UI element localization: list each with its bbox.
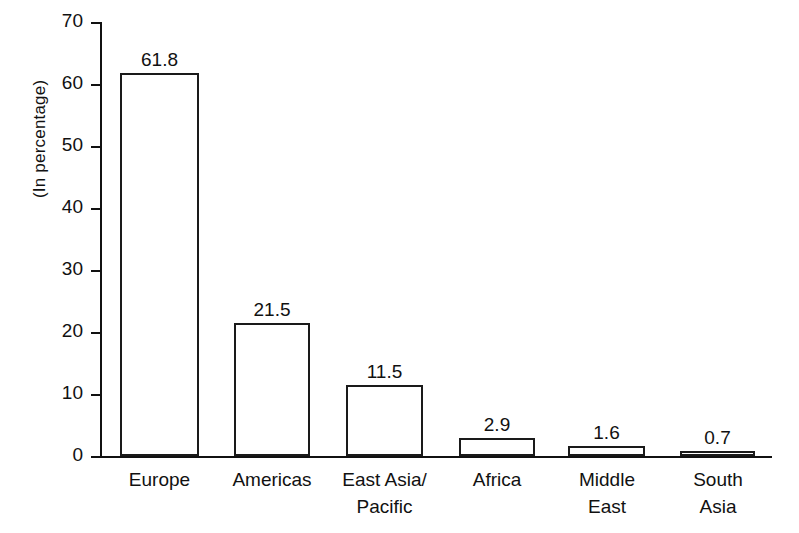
y-axis-tick-0: 0 bbox=[91, 456, 102, 458]
y-axis-tick-label-60: 60 bbox=[62, 73, 83, 93]
x-axis-label-east-asia-pacific: East Asia/ Pacific bbox=[328, 466, 441, 520]
y-axis-tick-20: 20 bbox=[91, 332, 102, 334]
x-axis-label-middle-east-line1: Middle bbox=[579, 469, 635, 490]
x-axis-label-south-asia-line2: Asia bbox=[662, 493, 774, 520]
x-axis-label-middle-east: Middle East bbox=[551, 466, 663, 520]
x-axis-label-africa: Africa bbox=[441, 466, 553, 493]
y-axis-title: (In percentage) bbox=[30, 0, 50, 198]
y-axis-tick-40: 40 bbox=[91, 208, 102, 210]
bar-value-south-asia: 0.7 bbox=[704, 427, 730, 448]
y-axis-tick-10: 10 bbox=[91, 394, 102, 396]
bar-middle-east[interactable]: 1.6 bbox=[568, 446, 645, 456]
y-axis-tick-label-0: 0 bbox=[72, 445, 83, 465]
x-axis-label-east-asia-pacific-line2: Pacific bbox=[328, 493, 441, 520]
x-axis-label-europe-line1: Europe bbox=[129, 469, 190, 490]
bar-americas[interactable]: 21.5 bbox=[234, 323, 310, 456]
y-axis-tick-label-20: 20 bbox=[62, 321, 83, 341]
y-axis-tick-60: 60 bbox=[91, 84, 102, 86]
y-axis-tick-label-30: 30 bbox=[62, 259, 83, 279]
bar-value-middle-east: 1.6 bbox=[593, 422, 619, 443]
bar-chart-figure: (In percentage) 70 60 50 40 30 20 10 0 bbox=[0, 0, 799, 533]
x-axis-label-east-asia-pacific-line1: East Asia/ bbox=[342, 469, 427, 490]
x-axis-label-americas-line1: Americas bbox=[232, 469, 311, 490]
x-axis-label-middle-east-line2: East bbox=[551, 493, 663, 520]
x-axis-label-south-asia: South Asia bbox=[662, 466, 774, 520]
x-axis-label-south-asia-line1: South bbox=[693, 469, 743, 490]
bar-africa[interactable]: 2.9 bbox=[459, 438, 535, 456]
y-axis-tick-label-10: 10 bbox=[62, 383, 83, 403]
bar-value-europe: 61.8 bbox=[141, 49, 178, 70]
x-axis-line bbox=[100, 456, 772, 458]
y-axis-line bbox=[100, 22, 102, 458]
y-axis-tick-label-70: 70 bbox=[62, 11, 83, 31]
x-axis-label-europe: Europe bbox=[104, 466, 215, 493]
x-axis-label-americas: Americas bbox=[216, 466, 328, 493]
bar-east-asia-pacific[interactable]: 11.5 bbox=[346, 385, 423, 456]
bar-value-africa: 2.9 bbox=[484, 414, 510, 435]
y-axis-tick-label-50: 50 bbox=[62, 135, 83, 155]
plot-area: 70 60 50 40 30 20 10 0 61.8 21.5 1 bbox=[100, 22, 772, 458]
y-axis-tick-50: 50 bbox=[91, 146, 102, 148]
bar-value-east-asia-pacific: 11.5 bbox=[367, 361, 403, 382]
y-axis-tick-70: 70 bbox=[91, 22, 102, 24]
bar-europe[interactable]: 61.8 bbox=[120, 73, 199, 456]
bar-south-asia[interactable]: 0.7 bbox=[680, 451, 755, 456]
y-axis-tick-30: 30 bbox=[91, 270, 102, 272]
bar-value-americas: 21.5 bbox=[254, 299, 291, 320]
x-axis-label-africa-line1: Africa bbox=[473, 469, 522, 490]
y-axis-tick-label-40: 40 bbox=[62, 197, 83, 217]
